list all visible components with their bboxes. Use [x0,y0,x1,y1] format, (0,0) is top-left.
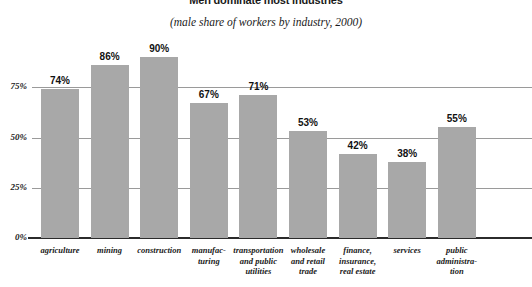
y-axis-tick-25: 25% [0,182,27,192]
x-axis-label-line: utilities [230,266,286,277]
x-axis-label-construction: construction [131,245,187,256]
bar-value-agriculture: 74% [35,75,85,86]
bar-services [388,162,426,238]
x-axis-label-manufacturing: manufac-turing [181,245,237,266]
x-axis-label-line: and retail [280,256,336,267]
x-axis-label-agriculture: agriculture [32,245,88,256]
x-axis-label-finance: finance,insurance,real estate [330,245,386,277]
x-axis-label-public-admin: publicadministra-tion [429,245,485,277]
bar-transportation [239,95,277,238]
x-axis-label-line: administra- [429,256,485,267]
x-axis-label-line: finance, [330,245,386,256]
x-axis-label-line: wholesale [280,245,336,256]
bar-public-admin [438,127,476,238]
bar-value-construction: 90% [134,43,184,54]
bar-value-finance: 42% [333,140,383,151]
x-axis-label-line: trade [280,266,336,277]
bar-manufacturing [190,103,228,238]
bar-construction [140,57,178,238]
x-axis-label-line: turing [181,256,237,267]
bar-finance [339,154,377,238]
x-axis-label-line: tion [429,266,485,277]
bar-value-wholesale-retail: 53% [283,117,333,128]
bar-value-services: 38% [382,148,432,159]
bar-value-public-admin: 55% [432,113,482,124]
x-axis-label-services: services [379,245,435,256]
bar-agriculture [41,89,79,238]
y-axis-tick-0: 0% [0,232,27,242]
x-axis-label-wholesale-retail: wholesaleand retailtrade [280,245,336,277]
y-axis-tick-75: 75% [0,81,27,91]
bar-value-transportation: 71% [233,81,283,92]
bar-mining [91,65,129,238]
x-axis-label-line: agriculture [32,245,88,256]
x-axis-label-line: and public [230,256,286,267]
x-axis-label-line: services [379,245,435,256]
x-axis-label-line: public [429,245,485,256]
x-axis-label-line: manufac- [181,245,237,256]
bar-wholesale-retail [289,131,327,238]
x-axis-label-line: construction [131,245,187,256]
x-axis-label-transportation: transportationand publicutilities [230,245,286,277]
bar-value-mining: 86% [85,51,135,62]
x-axis-label-mining: mining [82,245,138,256]
bar-chart-plot-area: 75% 50% 25% 0% 74%agriculture86%mining90… [0,0,532,287]
x-axis-label-line: transportation [230,245,286,256]
x-axis-label-line: mining [82,245,138,256]
bar-value-manufacturing: 67% [184,89,234,100]
x-axis-label-line: insurance, [330,256,386,267]
y-axis-tick-50: 50% [0,132,27,142]
x-axis-label-line: real estate [330,266,386,277]
